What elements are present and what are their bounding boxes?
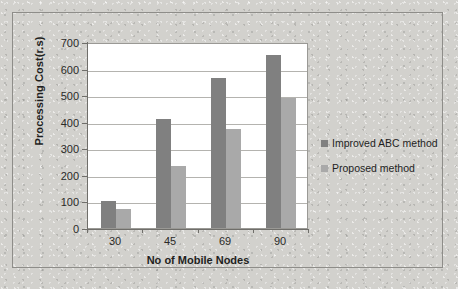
y-tick-200 xyxy=(82,176,87,177)
x-tick-label-30: 30 xyxy=(95,235,135,247)
legend-label-1: Improved ABC method xyxy=(332,137,438,149)
y-tick-300 xyxy=(82,149,87,150)
bar-69-series2 xyxy=(226,129,241,228)
bar-90-series2 xyxy=(281,98,296,228)
legend-swatch-icon-1 xyxy=(321,140,328,147)
y-tick-label-600: 600 xyxy=(39,65,79,76)
bar-69-series1 xyxy=(211,78,226,228)
x-tick-90 xyxy=(308,229,309,233)
x-tick-origin xyxy=(87,229,88,233)
x-tick-label-69: 69 xyxy=(205,235,245,247)
legend-item-1: Improved ABC method xyxy=(321,137,451,149)
y-tick-700 xyxy=(82,43,87,44)
y-tick-label-700: 700 xyxy=(39,38,79,49)
y-tick-label-400: 400 xyxy=(39,118,79,129)
bar-90-series1 xyxy=(266,55,281,228)
x-tick-label-45: 45 xyxy=(150,235,190,247)
y-tick-label-0: 0 xyxy=(39,224,79,235)
chart-frame: 7006005004003002001000 Processing Cost(r… xyxy=(12,12,443,268)
legend-item-2: Proposed method xyxy=(321,162,451,174)
y-tick-100 xyxy=(82,202,87,203)
plot-area xyxy=(87,43,308,229)
x-tick-label-90: 90 xyxy=(260,235,300,247)
x-axis-title: No of Mobile Nodes xyxy=(87,254,309,266)
legend-label-2: Proposed method xyxy=(332,162,415,174)
chart-legend: Improved ABC methodProposed method xyxy=(321,137,451,187)
y-tick-label-200: 200 xyxy=(39,171,79,182)
x-tick-30 xyxy=(142,229,143,233)
y-axis-line xyxy=(87,42,88,230)
y-axis-title: Processing Cost(r.s) xyxy=(33,21,45,161)
y-tick-label-500: 500 xyxy=(39,91,79,102)
y-tick-label-300: 300 xyxy=(39,144,79,155)
y-tick-400 xyxy=(82,123,87,124)
bar-30-series1 xyxy=(101,201,116,228)
x-tick-45 xyxy=(198,229,199,233)
legend-swatch-icon-2 xyxy=(321,165,328,172)
bar-45-series1 xyxy=(156,119,171,228)
x-tick-69 xyxy=(253,229,254,233)
figure-canvas: 7006005004003002001000 Processing Cost(r… xyxy=(0,0,458,289)
y-tick-label-100: 100 xyxy=(39,197,79,208)
bar-30-series2 xyxy=(116,209,131,228)
y-tick-600 xyxy=(82,70,87,71)
bar-45-series2 xyxy=(171,166,186,228)
y-tick-500 xyxy=(82,96,87,97)
